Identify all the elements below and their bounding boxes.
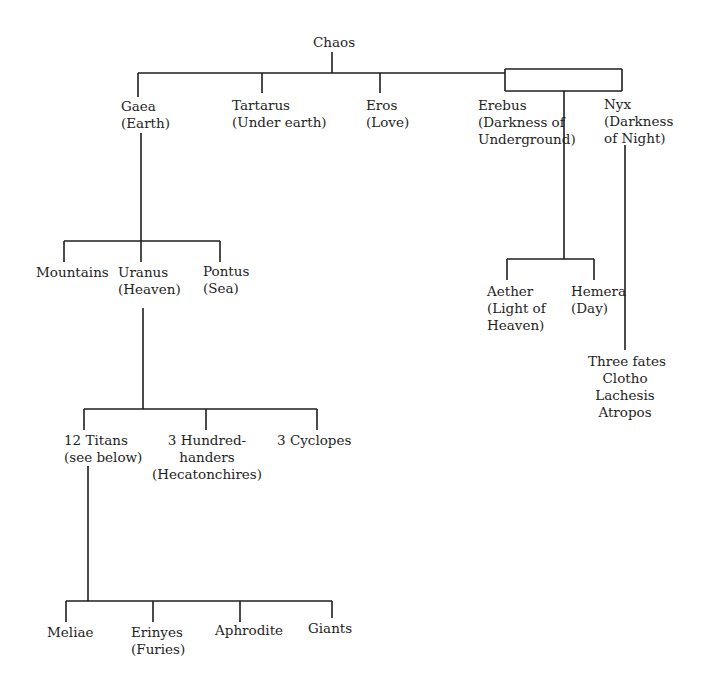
node-label: Erinyes [131, 624, 185, 641]
node-label: Nyx [604, 96, 673, 113]
node-uranus: Uranus (Heaven) [118, 264, 181, 298]
node-label: Erebus [478, 97, 576, 114]
node-label: 12 Titans [64, 432, 142, 449]
node-nyx: Nyx (Darkness of Night) [604, 96, 673, 147]
node-label: 3 Hundred- [148, 432, 266, 449]
node-hundred-handers: 3 Hundred- handers (Hecatonchires) [148, 432, 266, 483]
node-label: 3 Cyclopes [277, 432, 351, 449]
node-sublabel: (Love) [366, 114, 409, 131]
node-sublabel: (Under earth) [232, 114, 327, 131]
node-sublabel: Atropos [588, 404, 662, 421]
node-sublabel: (Darkness of [478, 114, 576, 131]
node-label: Eros [366, 97, 409, 114]
node-eros: Eros (Love) [366, 97, 409, 131]
node-label: Giants [308, 620, 352, 637]
node-sublabel: (Day) [571, 300, 626, 317]
node-sublabel: Underground) [478, 131, 576, 148]
node-label: Aether [487, 283, 546, 300]
node-three-fates: Three fates Clotho Lachesis Atropos [588, 353, 662, 421]
node-sublabel: (see below) [64, 449, 142, 466]
node-sublabel: handers [148, 449, 266, 466]
node-sublabel: (Darkness [604, 113, 673, 130]
node-aphrodite: Aphrodite [215, 622, 283, 639]
node-sublabel: (Hecatonchires) [148, 466, 266, 483]
node-erebus: Erebus (Darkness of Underground) [478, 97, 576, 148]
node-titans: 12 Titans (see below) [64, 432, 142, 466]
node-label: Pontus [203, 263, 249, 280]
node-meliae: Meliae [47, 624, 94, 641]
node-sublabel: (Heaven) [118, 281, 181, 298]
node-mountains: Mountains [36, 264, 109, 281]
node-cyclopes: 3 Cyclopes [277, 432, 351, 449]
node-pontus: Pontus (Sea) [203, 263, 249, 297]
node-label: Uranus [118, 264, 181, 281]
node-label: Tartarus [232, 97, 327, 114]
node-aether: Aether (Light of Heaven) [487, 283, 546, 334]
node-label: Gaea [121, 98, 170, 115]
node-sublabel: Lachesis [588, 387, 662, 404]
node-sublabel: (Light of [487, 300, 546, 317]
node-gaea: Gaea (Earth) [121, 98, 170, 132]
node-erinyes: Erinyes (Furies) [131, 624, 185, 658]
node-tartarus: Tartarus (Under earth) [232, 97, 327, 131]
node-sublabel: of Night) [604, 130, 673, 147]
node-chaos: Chaos [313, 34, 355, 51]
node-hemera: Hemera (Day) [571, 283, 626, 317]
node-sublabel: (Earth) [121, 115, 170, 132]
node-label: Aphrodite [215, 622, 283, 639]
node-sublabel: (Sea) [203, 280, 249, 297]
node-label: Mountains [36, 264, 109, 281]
node-giants: Giants [308, 620, 352, 637]
node-label: Meliae [47, 624, 94, 641]
node-sublabel: (Furies) [131, 641, 185, 658]
node-sublabel: Heaven) [487, 317, 546, 334]
node-sublabel: Clotho [588, 370, 662, 387]
node-label: Chaos [313, 34, 355, 51]
node-label: Three fates [588, 353, 662, 370]
tree-connectors [0, 0, 701, 680]
node-label: Hemera [571, 283, 626, 300]
